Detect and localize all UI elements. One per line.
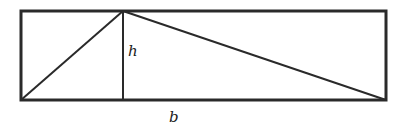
triangle-right-side <box>123 11 386 100</box>
triangle-rectangle-diagram: h b <box>0 0 404 129</box>
base-label: b <box>169 108 179 126</box>
bounding-rectangle <box>21 11 386 100</box>
height-label: h <box>128 42 138 60</box>
triangle-left-side <box>21 11 123 100</box>
